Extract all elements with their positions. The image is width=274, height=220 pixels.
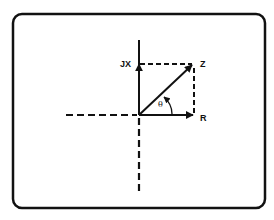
theta-arc xyxy=(164,97,172,114)
z-label: Z xyxy=(200,59,206,69)
theta-label: θ xyxy=(158,100,163,109)
r-label: R xyxy=(200,113,207,123)
jx-label: JX xyxy=(120,59,131,69)
phasor-diagram: JX Z R θ xyxy=(0,0,274,220)
z-vector xyxy=(139,65,192,115)
